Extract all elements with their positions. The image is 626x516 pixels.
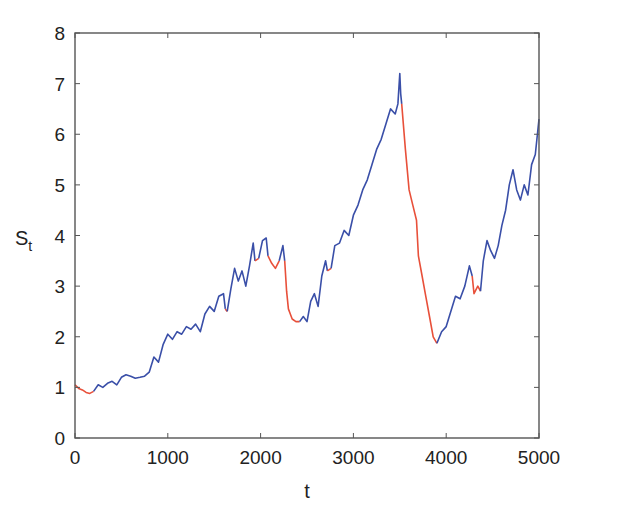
x-tick-label: 0: [70, 447, 81, 468]
y-tick-label: 0: [54, 428, 65, 449]
price-segment-regime_a: [481, 119, 540, 291]
price-segment-regime_b: [268, 256, 279, 269]
y-tick-label: 6: [54, 124, 65, 145]
price-segment-regime_a: [300, 261, 328, 322]
y-tick-label: 1: [54, 377, 65, 398]
price-segment-regime_b: [402, 104, 437, 343]
x-tick-label: 1000: [147, 447, 189, 468]
price-path-lines: [75, 74, 539, 394]
y-tick-label: 8: [54, 23, 65, 44]
x-tick-label: 2000: [239, 447, 281, 468]
y-axis-label: St: [15, 227, 32, 254]
y-tick-label: 4: [54, 226, 65, 247]
chart-figure: 010002000300040005000 012345678 t St: [0, 0, 626, 516]
plot-frame: [75, 33, 539, 438]
x-tick-label: 4000: [425, 447, 467, 468]
price-segment-regime_a: [279, 246, 285, 261]
price-segment-regime_b: [285, 261, 300, 322]
x-tick-label: 3000: [332, 447, 374, 468]
x-axis-label: t: [304, 480, 310, 502]
y-tick-label: 2: [54, 327, 65, 348]
x-axis-ticks: 010002000300040005000: [70, 33, 560, 468]
y-tick-label: 7: [54, 74, 65, 95]
price-segment-regime_a: [437, 266, 472, 343]
price-segment-regime_a: [259, 238, 268, 258]
x-tick-label: 5000: [518, 447, 560, 468]
y-axis-ticks: 012345678: [54, 23, 539, 449]
price-segment-regime_a: [331, 74, 402, 269]
price-segment-regime_a: [227, 243, 255, 311]
price-segment-regime_a: [94, 294, 226, 392]
price-segment-regime_b: [472, 276, 480, 294]
y-tick-label: 5: [54, 175, 65, 196]
price-segment-regime_b: [75, 385, 94, 394]
y-tick-label: 3: [54, 276, 65, 297]
price-segment-regime_b: [327, 268, 331, 271]
